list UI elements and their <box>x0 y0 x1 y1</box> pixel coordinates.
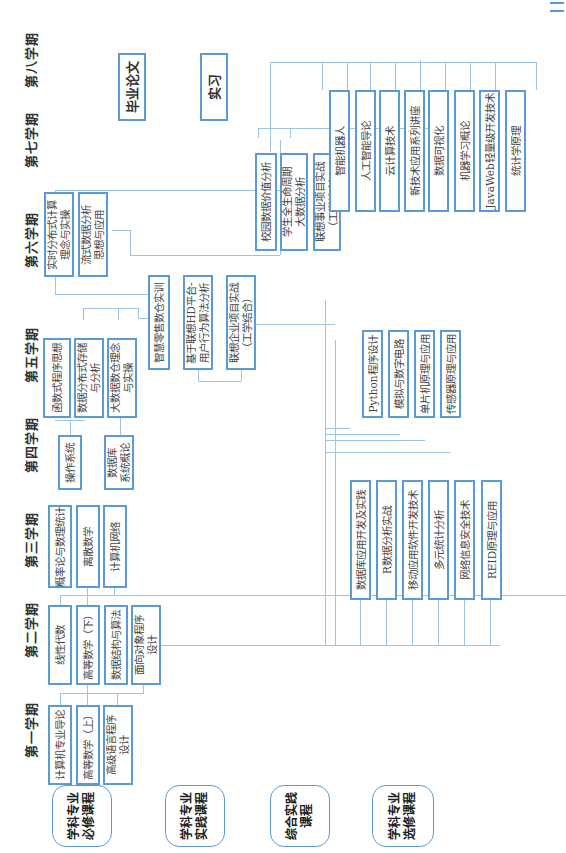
course-box: 线性代数 <box>48 605 72 685</box>
elective-box: Python程序设计 <box>362 330 383 418</box>
elective-box: 数据库应用开发及实践 <box>350 480 371 600</box>
course-box: 数据结构与算法 <box>104 605 128 685</box>
elective-box: 数据可视化 <box>428 90 449 212</box>
practice-box: 基于联想HD平台- 用户行为算法分析 <box>183 275 213 370</box>
elective-box: 人工智能导论 <box>355 90 376 212</box>
course-box: 操作系统 <box>58 435 82 490</box>
practice-box: 智慧零售数仓实训 <box>148 275 170 370</box>
course-box: 概率论与数理统计 <box>48 505 72 588</box>
elective-box: 网络信息安全技术 <box>454 480 475 600</box>
elective-box: 移动应用软件开发技术 <box>402 480 423 600</box>
page-corner-mark <box>550 2 564 12</box>
elective-box: 模拟与数字电路 <box>388 330 409 418</box>
elective-box: 单片机原理与应用 <box>414 330 435 418</box>
category-elective: 学科专业 选修课程 <box>372 785 434 847</box>
course-box: 离散数学 <box>76 505 100 588</box>
practice-box: 联想企业项目实战 （工学结合） <box>226 275 256 370</box>
course-box: 大数据数仓理念 与实操 <box>107 338 137 418</box>
course-box: 函数式程序思想 <box>43 338 71 418</box>
semester-label-2: 第二学期 <box>20 590 40 670</box>
elective-box: R数据分析实战 <box>376 480 397 600</box>
practice-box: 学生全生命周期 大数据分析 <box>280 153 308 251</box>
course-box: 流式数据分析 思想与应用 <box>78 192 108 277</box>
elective-box: 智能机器人 <box>329 90 350 212</box>
elective-box: 统计学原理 <box>505 90 526 212</box>
internship-box: 实习 <box>200 53 228 121</box>
semester-label-1: 第一学期 <box>20 690 40 770</box>
course-box: 计算机网络 <box>103 505 127 588</box>
course-box: 数据库 系统概论 <box>104 435 134 490</box>
category-comprehensive: 综合实践 课程 <box>270 785 330 847</box>
elective-box: 多元统计分析 <box>428 480 449 600</box>
course-box: 数据分布式存储 与分析 <box>74 338 104 418</box>
semester-label-4: 第四学期 <box>20 405 40 485</box>
semester-label-6: 第六学期 <box>20 200 40 280</box>
elective-box: 传感器原理与应用 <box>440 330 461 418</box>
course-box: 高等数学（上） <box>76 705 100 785</box>
elective-box: JavaWeb轻量级开发技术 <box>479 90 500 212</box>
semester-label-3: 第三学期 <box>20 500 40 580</box>
course-box: 高级语言程序 设计 <box>103 705 133 785</box>
elective-box: 机器学习概论 <box>454 90 475 212</box>
course-box: 计算机专业导论 <box>48 705 72 785</box>
course-box: 实时分布式计算 理念与实操 <box>44 192 74 277</box>
category-required: 学科专业 必修课程 <box>52 785 112 847</box>
practice-box: 校园数据价值分析 <box>255 153 277 251</box>
course-box: 面向对象程序 设计 <box>131 605 161 685</box>
thesis-box: 毕业论文 <box>118 53 146 121</box>
course-box: 高等数学（下） <box>76 605 100 685</box>
elective-box: REID原理与应用 <box>481 480 502 600</box>
elective-box: 新技术应用系列讲座 <box>404 90 425 212</box>
category-practice: 学科专业 实践课程 <box>165 785 225 847</box>
semester-label-5: 第五学期 <box>20 315 40 395</box>
semester-label-7: 第七学期 <box>20 100 40 180</box>
semester-label-8: 第八学期 <box>20 20 40 100</box>
elective-box: 云计算技术 <box>379 90 400 212</box>
